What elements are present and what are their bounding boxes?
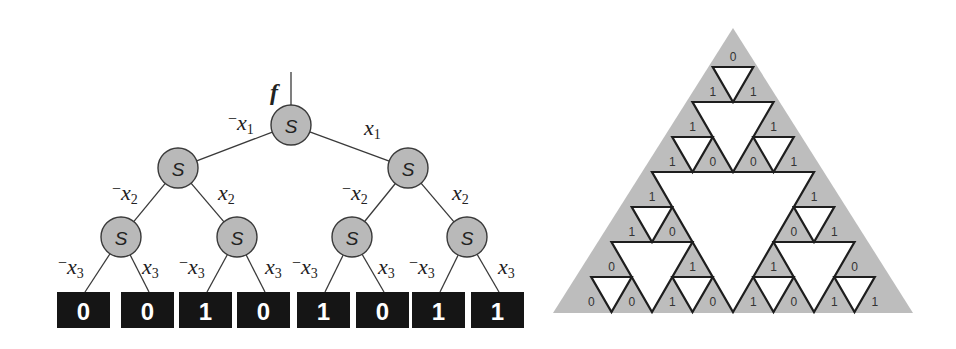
output-label-f: f (270, 79, 280, 105)
sierpinski-cell-value: 1 (689, 120, 696, 134)
leaf-value: 1 (317, 298, 330, 325)
tree-node-label: S (402, 159, 415, 180)
tree-node-label: S (115, 228, 128, 249)
sierpinski-cell-value: 1 (628, 225, 635, 239)
edge-label-not-x2: −x2 (342, 180, 368, 207)
tree-edge (440, 255, 458, 292)
tree-edge (197, 132, 273, 161)
sierpinski-cell-value: 0 (608, 260, 615, 274)
sierpinski-cell-value: 0 (588, 295, 595, 309)
sierpinski-cell-value: 1 (871, 295, 878, 309)
sierpinski-cell-value: 1 (669, 155, 676, 169)
tree-node-label: S (231, 228, 244, 249)
sierpinski-cell-value: 0 (709, 155, 716, 169)
leaf-value: 0 (376, 298, 389, 325)
edge-label-not-x2: −x2 (112, 180, 138, 207)
edge-label-x3: x3 (141, 254, 159, 281)
edge-label-not-x3: −x3 (58, 254, 84, 281)
edge-label-x3: x3 (264, 254, 282, 281)
sierpinski-cell-value: 0 (851, 260, 858, 274)
sierpinski-cell-value: 1 (770, 120, 777, 134)
edge-label-x2: x2 (217, 180, 235, 207)
tree-edge (421, 183, 454, 222)
leaf-value: 0 (77, 298, 90, 325)
sierpinski-cell-value: 1 (770, 260, 777, 274)
tree-edge (477, 254, 499, 292)
sierpinski-cell-value: 1 (750, 85, 757, 99)
sierpinski-cell-value: 0 (750, 155, 757, 169)
sierpinski-cell-value: 0 (709, 295, 716, 309)
sierpinski-cell-value: 1 (831, 225, 838, 239)
leaf-value: 0 (141, 298, 154, 325)
leaf-value: 1 (491, 298, 504, 325)
tree-edge (325, 255, 343, 292)
edge-label-x3: x3 (377, 254, 395, 281)
sierpinski-triangle-diagram: 011110101110000110101110011 (553, 28, 913, 313)
sierpinski-cell-value: 0 (790, 225, 797, 239)
sierpinski-cell-value: 0 (790, 295, 797, 309)
sierpinski-cell-value: 1 (750, 295, 757, 309)
edge-label-not-x3: −x3 (409, 254, 435, 281)
leaf-value: 1 (432, 298, 445, 325)
sierpinski-cell-value: 1 (811, 190, 818, 204)
figure-canvas: fSSSSSSS−x1x1−x2x2−x2x2−x3−x3−x3−x3x3x3x… (0, 0, 956, 349)
edge-label-not-x1: −x1 (228, 110, 254, 137)
tree-node-label: S (285, 116, 298, 137)
sierpinski-cell-value: 1 (790, 155, 797, 169)
edge-label-x1: x1 (363, 115, 381, 142)
sierpinski-cell-value: 0 (669, 225, 676, 239)
tree-edge (134, 183, 166, 221)
sierpinski-cell-value: 1 (689, 260, 696, 274)
tree-edge (207, 255, 227, 292)
sierpinski-cell-value: 0 (730, 50, 737, 64)
tree-node-label: S (172, 159, 185, 180)
leaf-value: 0 (257, 298, 270, 325)
tree-edge (246, 255, 265, 292)
decision-tree-diagram: fSSSSSSS−x1x1−x2x2−x2x2−x3−x3−x3−x3x3x3x… (57, 72, 524, 328)
sierpinski-cell-value: 0 (628, 295, 635, 309)
edge-label-x3: x3 (497, 254, 515, 281)
edge-label-not-x3: −x3 (179, 254, 205, 281)
edge-label-not-x3: −x3 (292, 254, 318, 281)
tree-edge (85, 254, 110, 292)
leaf-value: 1 (199, 298, 212, 325)
sierpinski-cell-value: 1 (649, 190, 656, 204)
edge-label-x2: x2 (451, 180, 469, 207)
tree-node-label: S (346, 228, 359, 249)
sierpinski-cell-value: 1 (831, 295, 838, 309)
sierpinski-cell-value: 1 (709, 85, 716, 99)
sierpinski-cell-value: 1 (669, 295, 676, 309)
tree-edge (365, 184, 396, 222)
tree-node-label: S (461, 228, 474, 249)
